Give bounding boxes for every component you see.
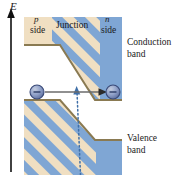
valence-band-label-line2: band: [127, 146, 145, 156]
diagram-canvas: [0, 0, 184, 175]
junction-label: Junction: [56, 21, 88, 31]
energy-axis-label: E: [10, 1, 17, 13]
n-side-marker-label: n: [105, 15, 110, 24]
electron-p-side: [30, 85, 44, 99]
electron-n-side: [106, 85, 120, 99]
valence-band-junction-hatch: [24, 96, 100, 175]
valence-band-n-fill: [96, 96, 122, 175]
pn-junction-band-diagram-figure: E p side Junction n side Conduction band…: [0, 0, 184, 175]
n-side-label: side: [101, 26, 116, 36]
energy-axis: [7, 8, 15, 172]
valence-band-label-line1: Valence: [127, 134, 157, 144]
photon-arrow-head-icon: [73, 86, 80, 95]
conduction-band-label-line2: band: [127, 50, 145, 60]
p-side-marker-label: p: [34, 15, 39, 24]
conduction-band-label-line1: Conduction: [127, 38, 171, 48]
p-side-label: side: [30, 26, 45, 36]
valence-band-region: [24, 96, 122, 175]
